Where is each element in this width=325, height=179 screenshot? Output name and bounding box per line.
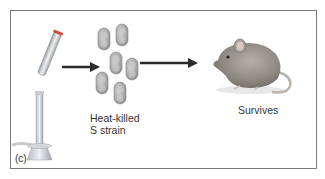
mouse-icon	[210, 32, 300, 97]
burner-with-test-tube-icon	[12, 28, 72, 168]
bacteria-label-line2: S strain	[90, 124, 140, 136]
bacteria-label-line1: Heat-killed	[90, 112, 140, 124]
bacteria-cluster-icon	[92, 22, 142, 112]
bacteria-label: Heat-killed S strain	[90, 112, 140, 136]
arrow-right-icon	[140, 58, 200, 68]
panel-label: (c)	[15, 153, 27, 164]
outcome-label: Survives	[238, 104, 278, 116]
